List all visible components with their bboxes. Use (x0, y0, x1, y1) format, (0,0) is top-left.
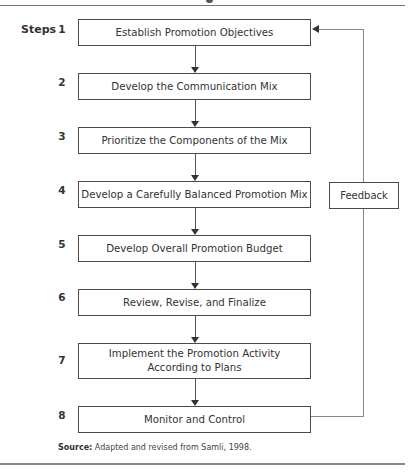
connector-4-5 (195, 208, 196, 229)
step-label-1: Establish Promotion Objectives (116, 26, 274, 40)
bottom-rule (0, 463, 405, 465)
step-number-6: 6 (57, 291, 67, 303)
step-box-2: Develop the Communication Mix (78, 73, 311, 100)
feedback-line-bottom (311, 416, 364, 417)
step-box-6: Review, Revise, and Finalize (78, 289, 311, 316)
step-number-4: 4 (57, 184, 67, 196)
step-box-3: Prioritize the Components of the Mix (78, 127, 311, 154)
step-label-6: Review, Revise, and Finalize (123, 296, 266, 310)
connector-5-6 (195, 262, 196, 283)
arrowhead-down-icon (191, 67, 199, 73)
feedback-line-top (318, 29, 364, 30)
top-rule (0, 5, 405, 6)
step-box-4: Develop a Carefully Balanced Promotion M… (78, 181, 311, 208)
step-label-7-line-2: According to Plans (147, 361, 241, 375)
arrowhead-down-icon (191, 337, 199, 343)
arrowhead-down-icon (191, 229, 199, 235)
step-number-3: 3 (57, 130, 67, 142)
step-label-3: Prioritize the Components of the Mix (101, 134, 287, 148)
feedback-box: Feedback (329, 182, 399, 209)
steps-label: Steps (21, 23, 56, 36)
arrowhead-down-icon (191, 283, 199, 289)
step-number-8: 8 (57, 409, 67, 421)
step-number-2: 2 (57, 76, 67, 88)
step-label-4: Develop a Carefully Balanced Promotion M… (81, 188, 307, 202)
connector-1-2 (195, 46, 196, 67)
step-number-7: 7 (57, 354, 67, 366)
step-number-1: 1 (57, 23, 67, 35)
title-fragment (206, 0, 213, 3)
step-label-8: Monitor and Control (144, 413, 245, 427)
source-note: Source: Adapted and revised from Samli, … (58, 443, 252, 452)
feedback-line-vertical-upper (363, 29, 364, 182)
connector-7-8 (195, 379, 196, 400)
connector-2-3 (195, 100, 196, 121)
feedback-label: Feedback (340, 190, 388, 201)
connector-3-4 (195, 154, 196, 175)
step-number-5: 5 (57, 238, 67, 250)
arrowhead-down-icon (191, 400, 199, 406)
arrowhead-down-icon (191, 121, 199, 127)
step-box-8: Monitor and Control (78, 406, 311, 433)
step-label-2: Develop the Communication Mix (111, 80, 277, 94)
step-label-5: Develop Overall Promotion Budget (106, 242, 283, 256)
source-prefix: Source: (58, 443, 92, 452)
connector-6-7 (195, 316, 196, 337)
step-box-5: Develop Overall Promotion Budget (78, 235, 311, 262)
step-box-7: Implement the Promotion Activity Accordi… (78, 343, 311, 379)
step-box-1: Establish Promotion Objectives (78, 19, 311, 46)
source-text: Adapted and revised from Samli, 1998. (95, 443, 252, 452)
arrowhead-left-icon (312, 25, 319, 33)
feedback-line-vertical-lower (363, 209, 364, 417)
arrowhead-down-icon (191, 175, 199, 181)
step-label-7-line-1: Implement the Promotion Activity (109, 347, 281, 361)
